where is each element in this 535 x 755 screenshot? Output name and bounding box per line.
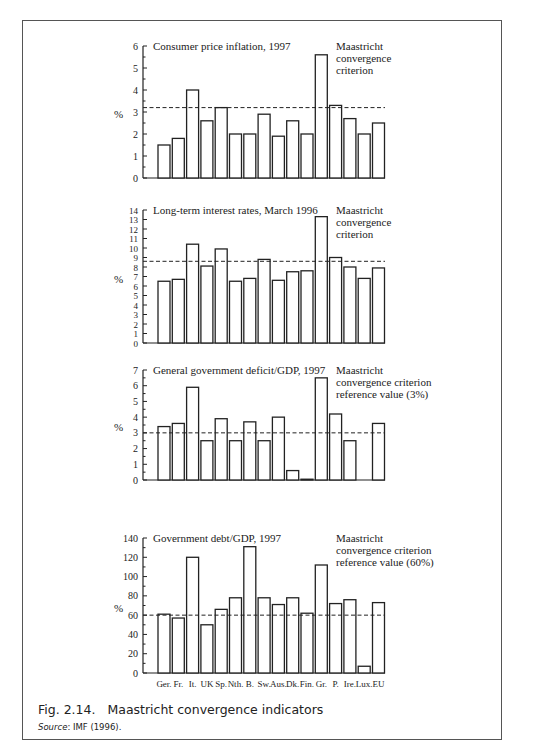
chart-panel-3: 01234567%General government deficit/GDP,…	[114, 364, 432, 486]
x-tick-label: Dk.	[286, 679, 299, 689]
y-tick-label: 11	[129, 234, 138, 244]
bar-eu	[373, 603, 385, 673]
bar-ger	[158, 281, 170, 343]
y-tick-label: 1	[134, 329, 139, 339]
bar-it	[187, 244, 199, 343]
x-tick-label: Sw.	[258, 679, 271, 689]
reference-label: criterion	[336, 64, 374, 76]
reference-label: reference value (3%)	[336, 388, 429, 401]
y-tick-label: 120	[123, 552, 138, 563]
reference-label: convergence criterion	[336, 544, 432, 556]
reference-label: convergence	[336, 52, 391, 64]
reference-label: Maastricht	[336, 40, 383, 52]
source-label: Source	[38, 722, 67, 732]
bar-ire	[344, 267, 356, 343]
y-tick-label: 3	[134, 310, 139, 320]
bar-nth	[230, 281, 242, 343]
y-tick-label: 0	[133, 475, 138, 486]
bar-sw	[258, 114, 270, 178]
bar-aus	[272, 417, 284, 480]
bar-fr	[172, 423, 184, 480]
y-axis-label: %	[114, 602, 123, 614]
bar-uk	[201, 266, 213, 343]
bar-nth	[230, 441, 242, 480]
chart-title: Long-term interest rates, March 1996	[153, 204, 318, 216]
y-tick-label: 7	[134, 272, 139, 282]
chart-panel-4: 020406080100120140%Government debt/GDP, …	[114, 532, 434, 689]
bar-sp	[215, 249, 227, 343]
y-tick-label: 1	[133, 459, 138, 470]
y-tick-label: 9	[134, 253, 139, 263]
y-tick-label: 60	[128, 610, 138, 621]
y-tick-label: 0	[133, 668, 138, 679]
y-tick-label: 2	[133, 443, 138, 454]
bar-sp	[215, 108, 227, 178]
bar-p	[330, 105, 342, 178]
bar-nth	[230, 598, 242, 673]
bar-sp	[215, 609, 227, 673]
y-tick-label: 14	[129, 206, 139, 216]
y-tick-label: 2	[134, 320, 139, 330]
bar-ger	[158, 145, 170, 178]
x-tick-label: Fin.	[300, 679, 314, 689]
bar-fin	[301, 271, 313, 343]
bar-uk	[201, 441, 213, 480]
y-tick-label: 6	[133, 380, 138, 391]
reference-label: Maastricht	[336, 204, 383, 216]
y-tick-label: 0	[133, 173, 138, 184]
bar-b	[244, 278, 256, 343]
caption-number: Fig. 2.14.	[38, 702, 95, 717]
y-tick-label: 3	[133, 427, 138, 438]
x-tick-label: Fr.	[173, 679, 183, 689]
y-tick-label: 5	[133, 63, 138, 74]
bar-sw	[258, 441, 270, 480]
bar-it	[187, 387, 199, 480]
bar-gr	[315, 565, 327, 673]
bar-lux	[358, 134, 370, 178]
y-tick-label: 5	[133, 396, 138, 407]
x-tick-label: Aus.	[270, 679, 287, 689]
bar-dk	[287, 471, 299, 480]
y-tick-label: 7	[133, 365, 138, 376]
bar-sw	[258, 259, 270, 343]
bar-p	[330, 604, 342, 673]
bar-eu	[373, 123, 385, 178]
source-text: : IMF (1996).	[67, 722, 121, 732]
x-tick-label: Sp.	[215, 679, 227, 689]
y-tick-label: 5	[134, 291, 139, 301]
bar-dk	[287, 121, 299, 178]
bar-it	[187, 90, 199, 178]
bar-uk	[201, 121, 213, 178]
bar-fr	[172, 279, 184, 343]
y-tick-label: 12	[129, 225, 138, 235]
bar-gr	[315, 378, 327, 480]
bar-ire	[344, 119, 356, 178]
chart-title: Government debt/GDP, 1997	[153, 532, 282, 544]
reference-label: Maastricht	[336, 364, 383, 376]
figure-caption: Fig. 2.14. Maastricht convergence indica…	[38, 702, 323, 717]
y-tick-label: 140	[123, 533, 138, 544]
x-tick-label: It.	[189, 679, 197, 689]
bar-ire	[344, 441, 356, 480]
reference-label: reference value (60%)	[336, 556, 434, 569]
chart-panel-2: 01234567891011121314%Long-term interest …	[114, 204, 391, 349]
bar-gr	[315, 55, 327, 178]
y-axis-label: %	[114, 273, 123, 285]
x-tick-label: Lux.	[356, 679, 373, 689]
bar-b	[244, 134, 256, 178]
y-tick-label: 100	[123, 571, 138, 582]
bar-fin	[301, 479, 313, 480]
x-tick-label: UK	[200, 679, 213, 689]
y-tick-label: 6	[134, 282, 139, 292]
bar-gr	[315, 217, 327, 343]
y-tick-label: 4	[133, 412, 138, 423]
y-tick-label: 40	[128, 629, 138, 640]
bar-p	[330, 414, 342, 480]
x-tick-label: Ger.	[156, 679, 171, 689]
chart-title: General government deficit/GDP, 1997	[153, 364, 326, 376]
bar-aus	[272, 136, 284, 178]
caption-title: Maastricht convergence indicators	[107, 702, 323, 717]
y-tick-label: 4	[133, 85, 138, 96]
y-tick-label: 8	[134, 263, 139, 273]
bar-sw	[258, 598, 270, 673]
